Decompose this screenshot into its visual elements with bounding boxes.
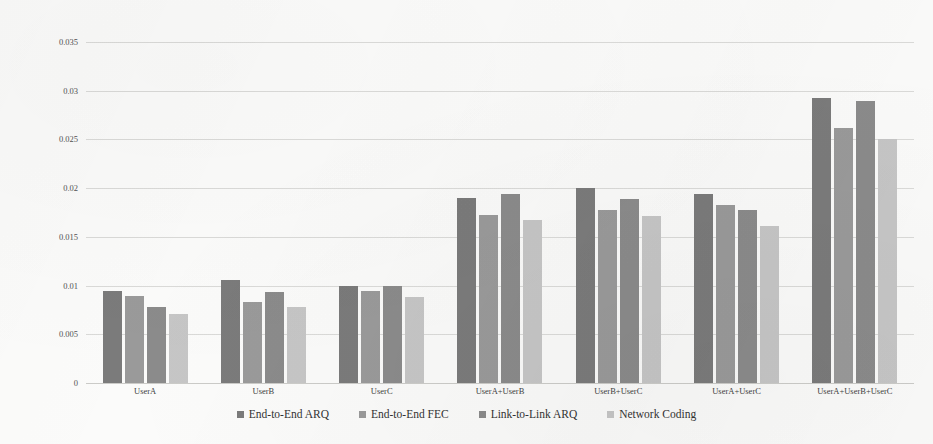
bar[interactable] xyxy=(383,286,402,383)
bar[interactable] xyxy=(405,297,424,383)
y-axis-tick-label: 0 xyxy=(74,378,78,388)
bar-group xyxy=(103,42,188,383)
y-axis-tick-label: 0.01 xyxy=(63,281,78,291)
bar[interactable] xyxy=(878,139,897,383)
bar[interactable] xyxy=(361,291,380,383)
bar-group xyxy=(694,42,779,383)
bar[interactable] xyxy=(856,101,875,383)
bar[interactable] xyxy=(812,98,831,383)
bar[interactable] xyxy=(760,226,779,383)
bar-group xyxy=(457,42,542,383)
bar[interactable] xyxy=(598,210,617,383)
legend-label: End-to-End FEC xyxy=(371,408,449,420)
bar-group xyxy=(812,42,897,383)
bar-groups xyxy=(86,42,914,383)
x-axis-tick-label: UserA+UserB xyxy=(441,386,559,404)
bar[interactable] xyxy=(523,220,542,383)
bar[interactable] xyxy=(103,291,122,383)
bar[interactable] xyxy=(642,216,661,383)
y-axis-tick-label: 0.03 xyxy=(63,86,78,96)
plot-area: 0.0350.030.0250.020.0150.010.0050 xyxy=(86,42,914,383)
x-axis-tick-label: UserC xyxy=(323,386,441,404)
legend-item[interactable]: Network Coding xyxy=(607,408,696,420)
bar[interactable] xyxy=(125,296,144,383)
legend-label: Link-to-Link ARQ xyxy=(491,408,578,420)
bar[interactable] xyxy=(716,205,735,383)
bar-group xyxy=(576,42,661,383)
y-axis-tick-label: 0.005 xyxy=(59,329,78,339)
bar[interactable] xyxy=(221,280,240,383)
bar[interactable] xyxy=(287,307,306,383)
legend-label: Network Coding xyxy=(619,408,696,420)
legend-label: End-to-End ARQ xyxy=(249,408,329,420)
y-axis-tick-label: 0.02 xyxy=(63,183,78,193)
bar[interactable] xyxy=(501,194,520,383)
gridline: 0 xyxy=(86,383,914,384)
bar[interactable] xyxy=(479,215,498,383)
y-axis-tick-label: 0.025 xyxy=(59,134,78,144)
y-axis-tick-label: 0.015 xyxy=(59,232,78,242)
legend-item[interactable]: End-to-End FEC xyxy=(359,408,449,420)
bar[interactable] xyxy=(243,302,262,383)
bar-group xyxy=(339,42,424,383)
bar[interactable] xyxy=(265,292,284,383)
bar[interactable] xyxy=(738,210,757,383)
chart-page: Packet Retransmission Frequency 0.0350.0… xyxy=(0,0,933,444)
x-axis-tick-label: UserA xyxy=(86,386,204,404)
x-axis-tick-labels: UserAUserBUserCUserA+UserBUserB+UserCUse… xyxy=(86,386,914,404)
bar[interactable] xyxy=(339,286,358,383)
x-axis-tick-label: UserB xyxy=(204,386,322,404)
bar[interactable] xyxy=(147,307,166,383)
bar-group xyxy=(221,42,306,383)
chart-legend: End-to-End ARQEnd-to-End FECLink-to-Link… xyxy=(0,408,933,420)
bar[interactable] xyxy=(576,188,595,383)
bar[interactable] xyxy=(694,194,713,383)
x-axis-tick-label: UserA+UserB+UserC xyxy=(796,386,914,404)
y-axis-tick-label: 0.035 xyxy=(59,37,78,47)
bar[interactable] xyxy=(169,314,188,383)
legend-swatch-icon xyxy=(359,411,366,418)
bar[interactable] xyxy=(457,198,476,383)
legend-swatch-icon xyxy=(237,411,244,418)
legend-swatch-icon xyxy=(479,411,486,418)
legend-item[interactable]: Link-to-Link ARQ xyxy=(479,408,578,420)
x-axis-tick-label: UserB+UserC xyxy=(559,386,677,404)
bar[interactable] xyxy=(620,199,639,383)
bar[interactable] xyxy=(834,128,853,383)
legend-item[interactable]: End-to-End ARQ xyxy=(237,408,329,420)
legend-swatch-icon xyxy=(607,411,614,418)
x-axis-tick-label: UserA+UserC xyxy=(677,386,795,404)
